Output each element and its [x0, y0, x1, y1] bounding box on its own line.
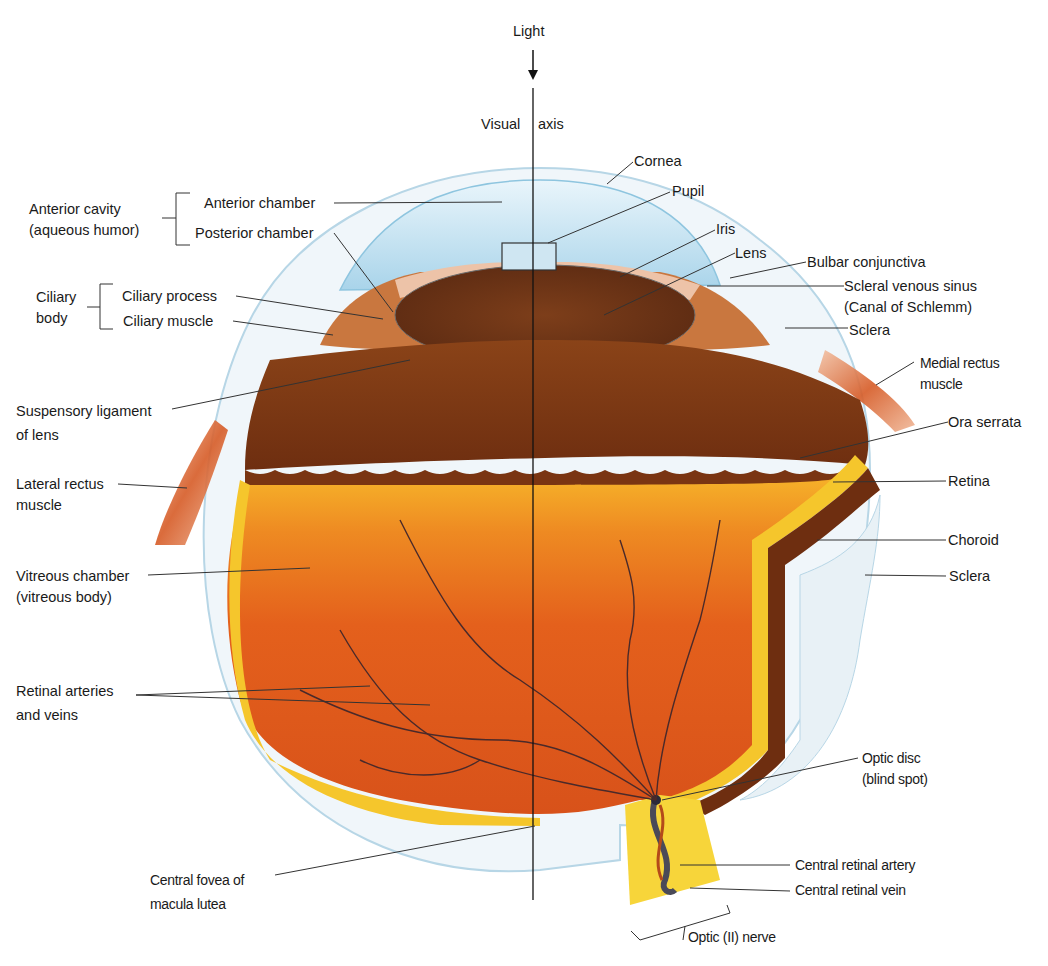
label-lateral-rectus: Lateral rectus muscle — [16, 474, 104, 516]
label-bulbar-conjunctiva: Bulbar conjunctiva — [807, 252, 926, 273]
label-pupil: Pupil — [672, 181, 704, 202]
label-scleral-venous-sinus: Scleral venous sinus (Canal of Schlemm) — [844, 276, 977, 318]
label-ciliary-process: Ciliary process — [122, 286, 217, 307]
label-lens: Lens — [735, 243, 766, 264]
label-optic-disc: Optic disc (blind spot) — [862, 748, 928, 790]
eye-anatomy-illustration — [0, 0, 1048, 966]
label-central-fovea: Central fovea of macula lutea — [150, 868, 244, 916]
label-light: Light — [513, 21, 544, 42]
label-line: Anterior cavity — [29, 199, 139, 220]
label-retina: Retina — [948, 471, 990, 492]
label-visual-axis-left: Visual — [481, 114, 520, 135]
label-line: (Canal of Schlemm) — [844, 297, 977, 318]
label-line: Retinal arteries — [16, 679, 114, 703]
label-visual-axis-right: axis — [538, 114, 564, 135]
label-anterior-chamber: Anterior chamber — [204, 193, 315, 214]
label-line: muscle — [16, 495, 104, 516]
label-ciliary-body: Ciliary body — [36, 287, 76, 329]
label-suspensory-ligament: Suspensory ligament of lens — [16, 399, 151, 447]
label-line: Ciliary — [36, 287, 76, 308]
label-retinal-vessels: Retinal arteries and veins — [16, 679, 114, 727]
label-line: (blind spot) — [862, 769, 928, 790]
label-line: Lateral rectus — [16, 474, 104, 495]
label-cornea: Cornea — [634, 151, 682, 172]
label-ciliary-muscle: Ciliary muscle — [123, 311, 213, 332]
label-posterior-chamber: Posterior chamber — [195, 223, 313, 244]
label-line: macula lutea — [150, 892, 244, 916]
label-line: Medial rectus — [920, 353, 999, 374]
label-iris: Iris — [716, 219, 735, 240]
label-optic-nerve: Optic (II) nerve — [688, 927, 776, 948]
label-line: of lens — [16, 423, 151, 447]
label-medial-rectus: Medial rectus muscle — [920, 353, 999, 395]
light-arrow-head — [528, 70, 538, 80]
label-line: Scleral venous sinus — [844, 276, 977, 297]
label-line: body — [36, 308, 76, 329]
label-choroid: Choroid — [948, 530, 999, 551]
label-line: (aqueous humor) — [29, 220, 139, 241]
label-ora-serrata: Ora serrata — [948, 412, 1021, 433]
pupil-marker — [502, 243, 556, 270]
label-line: Suspensory ligament — [16, 399, 151, 423]
label-sclera-lower: Sclera — [949, 566, 990, 587]
label-vitreous-chamber: Vitreous chamber (vitreous body) — [16, 566, 129, 608]
label-line: Optic disc — [862, 748, 928, 769]
label-central-retinal-vein: Central retinal vein — [795, 880, 906, 901]
label-line: Central fovea of — [150, 868, 244, 892]
label-line: (vitreous body) — [16, 587, 129, 608]
label-line: muscle — [920, 374, 999, 395]
label-line: Vitreous chamber — [16, 566, 129, 587]
label-central-retinal-artery: Central retinal artery — [795, 855, 915, 876]
label-sclera-upper: Sclera — [849, 320, 890, 341]
label-anterior-cavity: Anterior cavity (aqueous humor) — [29, 199, 139, 241]
label-line: and veins — [16, 703, 114, 727]
